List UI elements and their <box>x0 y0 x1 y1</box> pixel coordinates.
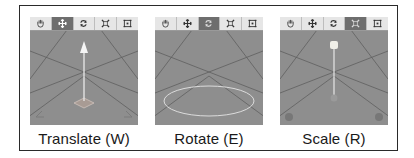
rect-icon <box>248 19 257 28</box>
scale-handle-icon[interactable] <box>330 41 338 49</box>
scene-viewport[interactable] <box>280 31 388 125</box>
move-icon <box>308 19 317 28</box>
hand-tool-button[interactable] <box>280 17 302 30</box>
translate-arrow-icon[interactable] <box>80 41 88 53</box>
axis-indicator-left <box>36 111 44 117</box>
panel-label: Rotate (E) <box>155 130 263 147</box>
z-scale-handle[interactable] <box>375 113 383 121</box>
center-handle[interactable] <box>331 95 338 102</box>
scale-icon <box>351 19 360 28</box>
move-tool-button[interactable] <box>177 17 199 30</box>
move-tool-button[interactable] <box>52 17 74 30</box>
translate-panel: Translate (W) <box>30 17 138 147</box>
rect-tool-button[interactable] <box>367 17 388 30</box>
scale-icon <box>101 19 110 28</box>
rotate-icon <box>204 19 213 28</box>
scene-viewport[interactable] <box>155 31 263 125</box>
hand-tool-button[interactable] <box>155 17 177 30</box>
move-tool-button[interactable] <box>302 17 324 30</box>
hand-icon <box>36 19 45 28</box>
transform-toolbar <box>155 17 263 31</box>
rect-tool-button[interactable] <box>242 17 263 30</box>
axis-indicator-right <box>124 111 132 117</box>
hand-icon <box>286 19 295 28</box>
rotate-panel: Rotate (E) <box>155 17 263 147</box>
rotate-icon <box>79 19 88 28</box>
panel-label: Translate (W) <box>30 130 138 147</box>
move-icon <box>58 19 67 28</box>
rect-tool-button[interactable] <box>117 17 138 30</box>
scale-icon <box>226 19 235 28</box>
transform-toolbar <box>30 17 138 31</box>
scene-viewport[interactable] <box>30 31 138 125</box>
scale-tool-button[interactable] <box>95 17 117 30</box>
hand-icon <box>161 19 170 28</box>
rect-icon <box>123 19 132 28</box>
scale-panel: Scale (R) <box>280 17 388 147</box>
tool-comparison-frame: Translate (W) Rotat <box>19 5 398 151</box>
move-icon <box>183 19 192 28</box>
transform-toolbar <box>280 17 388 31</box>
rotate-tool-button[interactable] <box>74 17 96 30</box>
rect-icon <box>373 19 382 28</box>
rotate-icon <box>329 19 338 28</box>
x-scale-handle[interactable] <box>285 113 293 121</box>
scale-tool-button[interactable] <box>345 17 367 30</box>
hand-tool-button[interactable] <box>30 17 52 30</box>
panel-label: Scale (R) <box>280 130 388 147</box>
rotate-ring-icon[interactable] <box>164 86 254 116</box>
scale-tool-button[interactable] <box>220 17 242 30</box>
rotate-tool-button[interactable] <box>199 17 221 30</box>
rotate-tool-button[interactable] <box>324 17 346 30</box>
